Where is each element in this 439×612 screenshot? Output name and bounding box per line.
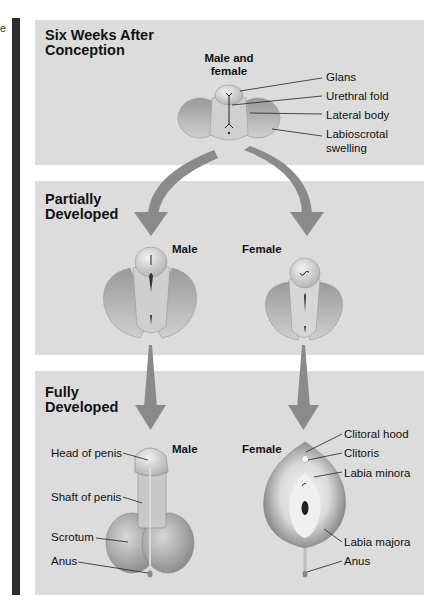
part-label-lateral-body: Lateral body — [326, 108, 389, 122]
side-bar — [12, 18, 20, 595]
figure-label-partial-male: Male — [172, 243, 198, 256]
figure-label-male-and-female: Male and female — [196, 52, 262, 78]
part-label-anus-male: Anus — [51, 554, 77, 568]
part-label-head-of-penis: Head of penis — [51, 446, 122, 460]
part-label-shaft-of-penis: Shaft of penis — [51, 490, 121, 504]
part-label-labia-minora: Labia minora — [344, 466, 410, 480]
figure-label-full-female: Female — [242, 443, 282, 456]
panel-title: Partially Developed — [45, 192, 118, 222]
part-label-clitoral-hood: Clitoral hood — [344, 427, 409, 441]
part-label-clitoris: Clitoris — [344, 446, 379, 460]
part-label-urethral-fold: Urethral fold — [326, 89, 389, 103]
panel-title: Six Weeks After Conception — [45, 28, 154, 58]
part-label-labia-majora: Labia majora — [344, 535, 410, 549]
panel-title: Fully Developed — [45, 385, 118, 415]
cropped-edge-text: e — [0, 22, 6, 34]
part-label-labioscrotal-swelling: Labioscrotal swelling — [326, 127, 388, 155]
figure-label-partial-female: Female — [242, 243, 282, 256]
part-label-glans: Glans — [326, 70, 356, 84]
part-label-scrotum: Scrotum — [51, 530, 94, 544]
panel-partially-developed: Partially Developed — [35, 181, 424, 355]
part-label-anus-female: Anus — [344, 554, 370, 568]
figure-label-full-male: Male — [172, 443, 198, 456]
